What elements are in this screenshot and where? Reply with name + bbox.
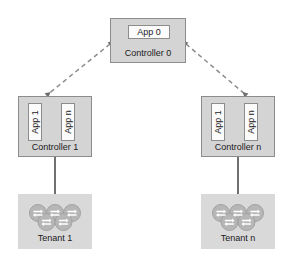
app-box-controllern-appn[interactable]: App n [244, 103, 258, 141]
diagram-canvas: App 0 Controller 0 App 1 App n Controlle… [0, 0, 293, 260]
controllern-appn-label: App n [246, 110, 256, 134]
tenant-n-label: Tenant n [201, 233, 275, 244]
controller-n-label: Controller n [202, 142, 274, 153]
app-box-controller1-app1[interactable]: App 1 [28, 103, 42, 141]
app-0-label: App 0 [137, 27, 161, 37]
controller-0-box[interactable]: App 0 Controller 0 [110, 18, 186, 63]
controllern-app1-label: App 1 [213, 110, 223, 134]
controller1-app1-label: App 1 [30, 110, 40, 134]
tenant-1-box[interactable]: Tenant 1 [18, 194, 92, 249]
network-cluster-icon [210, 203, 266, 231]
app-box-controller1-appn[interactable]: App n [61, 103, 75, 141]
app-box-app-0[interactable]: App 0 [128, 25, 170, 39]
network-cluster-icon [27, 203, 83, 231]
tenant-n-box[interactable]: Tenant n [201, 194, 275, 249]
controller-1-label: Controller 1 [19, 142, 91, 153]
link-controllern-controller0 [186, 44, 246, 95]
controller-1-box[interactable]: App 1 App n Controller 1 [18, 96, 92, 157]
tenant-1-label: Tenant 1 [18, 233, 92, 244]
link-controller1-controller0 [47, 44, 110, 95]
controller-n-box[interactable]: App 1 App n Controller n [201, 96, 275, 157]
controller1-appn-label: App n [63, 110, 73, 134]
app-box-controllern-app1[interactable]: App 1 [211, 103, 225, 141]
controller-0-label: Controller 0 [111, 48, 185, 59]
